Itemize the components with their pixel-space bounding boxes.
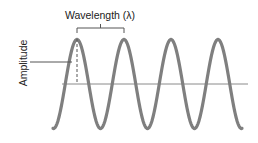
wave-diagram: Wavelength (λ) Amplitude bbox=[0, 0, 258, 143]
wavelength-label: Wavelength (λ) bbox=[65, 9, 135, 21]
amplitude-label: Amplitude bbox=[17, 40, 29, 87]
wavelength-bracket bbox=[77, 24, 124, 33]
